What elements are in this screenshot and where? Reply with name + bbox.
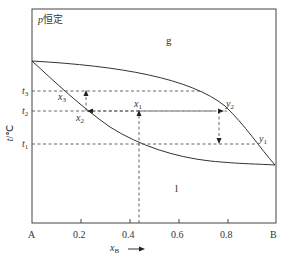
title-label: p恒定 [38,15,63,25]
t2-label: t2 [22,106,28,118]
region-liquid-label: l [175,183,178,194]
plot-frame [32,9,276,223]
point-y2-label: y2 [226,99,234,111]
t3-label: t3 [22,86,28,98]
arrow-heads [84,90,225,144]
x-axis-arrow-icon [139,247,145,252]
vapor-curve [32,61,275,165]
y-axis-label: t/℃ [5,125,15,142]
x-tick-0.2: 0.2 [73,230,86,240]
composition-lines [86,94,219,223]
x-tick-0.4: 0.4 [122,230,135,240]
x-tick-A: A [28,230,35,240]
liquid-curve [32,61,275,165]
point-x3-label: x3 [58,92,66,104]
x-tick-0.6: 0.6 [171,230,184,240]
phase-diagram [0,0,287,270]
point-x1-label: x1 [134,99,142,111]
point-y1-label: y1 [259,134,267,146]
x-tick-0.8: 0.8 [220,230,233,240]
region-gas-label: g [166,35,172,46]
x-axis-label: xB [110,243,119,255]
x-tick-B: B [270,230,277,240]
x-ticks [81,219,228,223]
t1-label: t1 [22,139,28,151]
point-x2-label: x2 [76,113,84,125]
